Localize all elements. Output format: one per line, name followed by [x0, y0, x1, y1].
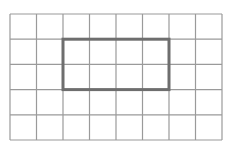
grid-svg: [0, 0, 228, 145]
grid-lines: [10, 14, 222, 140]
grid-diagram: [0, 0, 228, 145]
